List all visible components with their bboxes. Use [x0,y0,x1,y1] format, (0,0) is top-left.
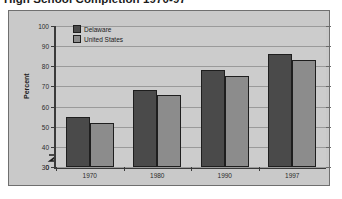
x-axis-label: 1997 [285,172,299,179]
y-axis-label: 70 [42,83,49,90]
bar-groups: 1970198019901997 [56,26,326,167]
bar-group: 1980 [124,26,192,167]
x-axis-label: 1990 [218,172,232,179]
chart-title: High School Completion 1970-97 [4,0,186,5]
bar-pair [259,26,327,167]
legend-swatch-united-states [73,35,81,43]
bar-pair [56,26,124,167]
y-axis-label: 40 [42,143,49,150]
bar-pair [124,26,192,167]
bar-group: 1970 [56,26,124,167]
legend-label-delaware: Delaware [84,26,111,33]
legend-swatch-delaware [73,25,81,33]
legend-item-united-states: United States [73,35,123,43]
y-axis-tick-right [326,86,331,87]
chart-screenshot: High School Completion 1970-97 Percent 1… [0,0,342,199]
y-axis-label: 60 [42,103,49,110]
y-axis-title: Percent [23,73,30,99]
x-axis-tick [56,167,57,171]
y-axis-tick-right [326,167,331,168]
y-axis-tick-right [326,26,331,27]
legend-label-united-states: United States [84,36,123,43]
x-axis-tick [124,167,125,171]
x-axis-label: 1980 [150,172,164,179]
bar-delaware-1997 [268,54,292,167]
chart-frame: Percent 100908070605040300 1970198019901… [8,10,330,186]
plot-area: 100908070605040300 1970198019901997 [54,26,326,169]
bar-united-states-1970 [90,123,114,167]
y-axis-tick-right [326,107,331,108]
y-axis-label: 50 [42,123,49,130]
y-axis-tick-right [326,127,331,128]
y-axis-label-zero: 0 [45,164,49,171]
bar-group: 1990 [191,26,259,167]
x-axis-tick [259,167,260,171]
bar-united-states-1980 [157,95,181,168]
bar-group: 1997 [259,26,327,167]
y-axis-tick-right [326,46,331,47]
bar-delaware-1970 [66,117,90,167]
x-axis-tick [191,167,192,171]
chart-legend: Delaware United States [73,25,123,43]
y-axis-label: 100 [38,23,49,30]
bar-pair [191,26,259,167]
bar-united-states-1990 [225,76,249,167]
legend-item-delaware: Delaware [73,25,123,33]
x-axis-label: 1970 [83,172,97,179]
y-axis-label: 90 [42,43,49,50]
bar-united-states-1997 [292,60,316,167]
y-axis-tick-right [326,147,331,148]
bar-delaware-1980 [133,90,157,167]
bar-delaware-1990 [201,70,225,167]
y-axis-label: 80 [42,63,49,70]
y-axis-tick-right [326,66,331,67]
